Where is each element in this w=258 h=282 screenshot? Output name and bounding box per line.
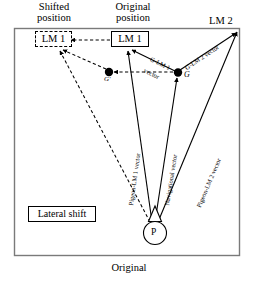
landmark-lm1-original-box: LM 1 [111,31,149,47]
landmark-lm1-shifted-box: LM 1 [35,31,72,47]
goal-label-g-prime: G' [104,76,111,83]
pigeon-label: P [151,228,156,238]
figure-caption: Original [0,263,258,274]
header-original-position: Originalposition [95,2,171,23]
goal-point-g [174,68,182,76]
goal-label-g: G [184,71,190,79]
header-shifted-position: Shiftedposition [16,2,92,23]
landmark-lm2-label: LM 2 [209,16,233,27]
figure-container: Shiftedposition Originalposition LM 2 LM… [0,0,258,282]
vector-label-g-lm1-line1: G-LM 1 [149,55,171,71]
lateral-shift-annotation: Lateral shift [28,206,96,222]
